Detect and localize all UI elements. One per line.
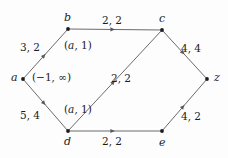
arrowhead-d-e (110, 129, 115, 133)
edge-label-a-b: 3, 2 (20, 42, 40, 53)
a-potential-label: (−1, ∞) (32, 72, 71, 83)
node-label-z: z (214, 72, 220, 83)
edge-label-e-z: 4, 2 (181, 111, 201, 122)
node-label-c: c (159, 13, 165, 24)
node-label-d: d (64, 136, 71, 147)
graph-figure: 3, 22, 24, 45, 42, 22, 24, 2abcdez(a, 1)… (0, 0, 228, 158)
node-label-a: a (11, 72, 18, 83)
node-dot-a (21, 77, 25, 81)
node-dot-z (205, 77, 209, 81)
edge-label-a-d: 5, 4 (20, 110, 40, 121)
node-dot-b (66, 27, 70, 31)
node-dot-e (160, 129, 164, 133)
ab-interval-label: (a, 1) (64, 40, 92, 51)
arrowhead-b-c (110, 27, 115, 31)
node-dot-c (160, 28, 164, 32)
ad-interval-label: (a, 1) (64, 104, 92, 115)
node-label-e: e (159, 137, 166, 148)
edge-label-b-c: 2, 2 (102, 15, 122, 26)
edge-label-c-z: 4, 4 (181, 43, 201, 54)
node-label-b: b (64, 12, 71, 23)
edge-label-d-e: 2, 2 (102, 136, 122, 147)
edge-label-d-c: 2, 2 (111, 73, 131, 84)
node-dot-d (66, 129, 70, 133)
